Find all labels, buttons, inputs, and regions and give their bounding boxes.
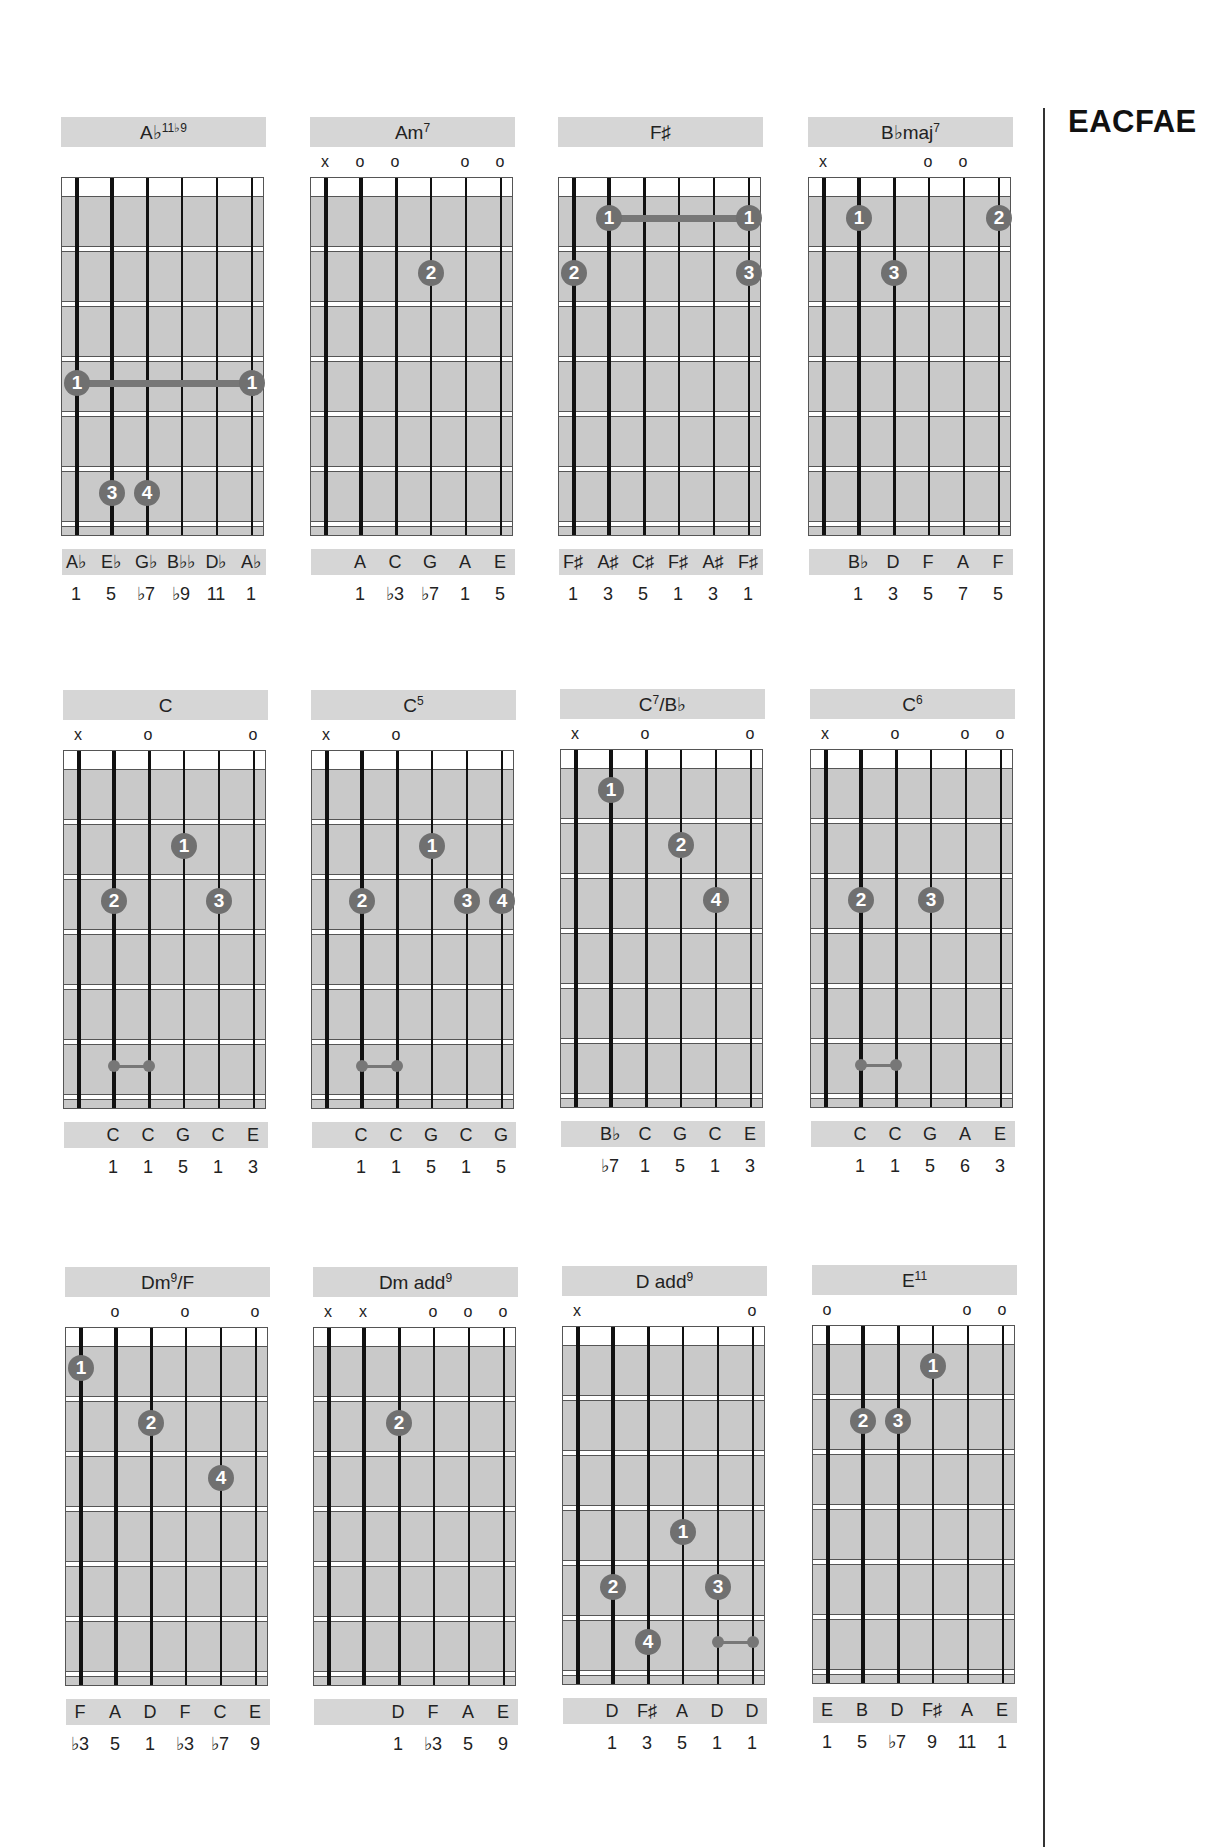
string-markers: xoo <box>560 723 765 745</box>
guitar-string <box>965 750 967 1107</box>
interval-degree: 5 <box>981 581 1015 607</box>
optional-note-dot <box>356 1060 368 1072</box>
interval-degree: 1 <box>59 581 93 607</box>
chord-extension: 11♭9 <box>162 121 187 135</box>
open-string-icon: o <box>105 1301 125 1323</box>
interval-degree: 1 <box>234 581 268 607</box>
interval-degree: ♭7 <box>880 1729 914 1755</box>
interval-degree: 5 <box>451 1731 485 1757</box>
fret-line <box>62 466 263 472</box>
fret-line <box>813 1559 1014 1565</box>
fretboard: 1134 <box>61 177 264 536</box>
note-name: A <box>343 549 377 575</box>
guitar-string <box>857 178 861 535</box>
optional-note-dot <box>143 1060 155 1072</box>
fret-line <box>811 1093 1012 1099</box>
interval-degree: 1 <box>201 1154 235 1180</box>
open-string-icon: o <box>245 1301 265 1323</box>
finger-dot: 2 <box>561 260 587 286</box>
guitar-string <box>503 1328 505 1685</box>
open-string-icon: o <box>138 724 158 746</box>
interval-degree: ♭3 <box>168 1731 202 1757</box>
guitar-string <box>183 751 186 1108</box>
note-name: E <box>733 1121 767 1147</box>
note-name: F <box>416 1699 450 1725</box>
guitar-string <box>680 750 683 1107</box>
fret-line <box>559 521 760 527</box>
note-name: G <box>663 1121 697 1147</box>
note-name: G <box>413 549 447 575</box>
note-names-bar: F♯A♯C♯F♯A♯F♯ <box>559 549 763 575</box>
guitar-string <box>748 178 750 535</box>
interval-degree: 1 <box>379 1154 413 1180</box>
guitar-string <box>607 178 611 535</box>
guitar-string <box>431 751 434 1108</box>
string-markers: xooo <box>810 723 1015 745</box>
chord-root: F♯ <box>650 122 671 143</box>
open-string-icon: o <box>493 1301 513 1323</box>
nut <box>66 1328 267 1347</box>
interval-degree: ♭7 <box>203 1731 237 1757</box>
guitar-string <box>893 178 896 535</box>
note-name: B♭ <box>841 549 875 575</box>
guitar-string <box>678 178 681 535</box>
note-name: D <box>595 1698 629 1724</box>
interval-degree: 1 <box>448 581 482 607</box>
interval-degree: 3 <box>696 581 730 607</box>
interval-degree: 5 <box>626 581 660 607</box>
finger-dot: 1 <box>670 1519 696 1545</box>
guitar-string <box>1000 750 1002 1107</box>
chord-root: C <box>639 694 653 715</box>
open-string-icon: o <box>635 723 655 745</box>
chord-diagram: Am7xoooo2ACGAE1♭3♭715 <box>310 117 515 617</box>
fret-line <box>62 246 263 252</box>
open-string-icon: o <box>490 151 510 173</box>
chord-diagram: C5xo1234CCGCG11515 <box>311 690 516 1190</box>
interval-degree: 3 <box>733 1153 767 1179</box>
finger-dot: 3 <box>918 887 944 913</box>
fret-line <box>811 983 1012 989</box>
finger-dot: 3 <box>99 480 125 506</box>
chord-root: D add <box>636 1271 687 1292</box>
guitar-string <box>715 750 717 1107</box>
guitar-string <box>75 178 80 535</box>
interval-degree: ♭3 <box>63 1731 97 1757</box>
open-string-icon: o <box>953 151 973 173</box>
fret-line <box>561 873 762 879</box>
note-name: E <box>983 1121 1017 1147</box>
chord-name: Am7 <box>310 117 515 147</box>
fret-line <box>311 521 512 527</box>
note-name: G <box>414 1122 448 1148</box>
note-name: C <box>628 1121 662 1147</box>
guitar-string <box>255 1328 257 1685</box>
fretboard: 124 <box>65 1327 268 1686</box>
note-name: B <box>845 1697 879 1723</box>
guitar-string <box>574 750 579 1107</box>
chord-bass: /B♭ <box>659 694 686 715</box>
chord-root: C <box>902 694 916 715</box>
finger-dot: 3 <box>881 260 907 286</box>
open-string-icon: o <box>740 723 760 745</box>
string-markers: xoo <box>808 151 1013 173</box>
chord-name: C6 <box>810 689 1015 719</box>
fret-line <box>559 466 760 472</box>
note-name: E <box>810 1697 844 1723</box>
note-names-bar: CCGCG <box>312 1122 516 1148</box>
guitar-string <box>114 1328 118 1685</box>
note-name: C <box>878 1121 912 1147</box>
fret-line <box>311 466 512 472</box>
guitar-string <box>1002 1326 1004 1683</box>
note-name: A <box>950 1697 984 1723</box>
optional-note-dot <box>391 1060 403 1072</box>
note-name: G <box>913 1121 947 1147</box>
fret-line <box>312 1094 513 1100</box>
fret-line <box>559 356 760 362</box>
guitar-string <box>717 1327 719 1684</box>
note-name: E <box>483 549 517 575</box>
guitar-string <box>500 178 502 535</box>
chord-diagram: Dm9/Fooo124FADFCE♭351♭3♭79 <box>65 1267 270 1767</box>
finger-dot: 2 <box>349 888 375 914</box>
open-string-icon: o <box>175 1301 195 1323</box>
note-name: E♭ <box>94 549 128 575</box>
note-names-bar: DFAE <box>314 1699 518 1725</box>
